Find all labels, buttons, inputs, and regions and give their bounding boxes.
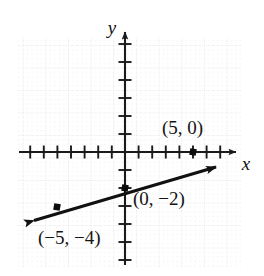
point-marker-5-0 [189, 148, 197, 156]
point-label-0-neg2: (0, −2) [133, 188, 185, 210]
coordinate-plane-svg: (5, 0) (0, −2) (−5, −4) y x [0, 0, 264, 276]
point-marker-0-neg2 [121, 184, 129, 192]
point-marker-neg5-neg4 [53, 203, 61, 211]
x-axis-label: x [241, 153, 251, 174]
point-label-5-0: (5, 0) [162, 117, 203, 139]
y-axis-label: y [106, 17, 117, 38]
point-label-neg5-neg4: (−5, −4) [38, 227, 101, 249]
graph-figure: (5, 0) (0, −2) (−5, −4) y x [0, 0, 264, 276]
